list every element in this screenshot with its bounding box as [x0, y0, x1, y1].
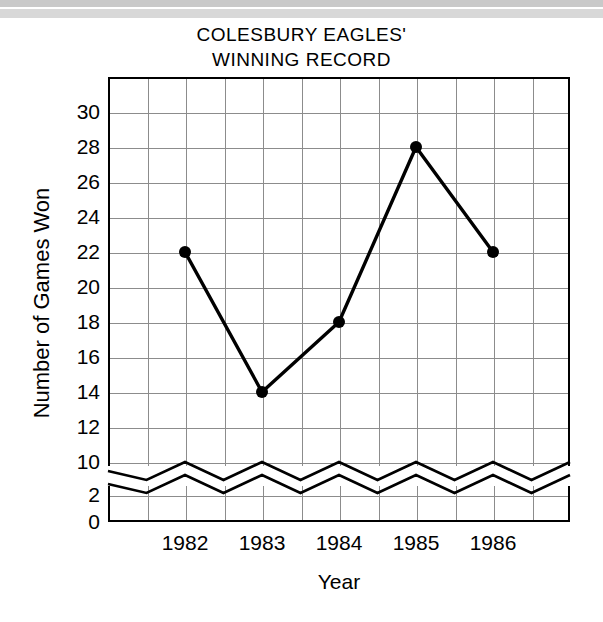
y-axis-title: Number of Games Won: [29, 113, 55, 493]
chart-figure: COLESBURY EAGLES' WINNING RECORD 3028262…: [0, 0, 603, 622]
x-tick-label-1984: 1984: [299, 532, 379, 553]
x-tick-label-1983: 1983: [222, 532, 302, 553]
x-tick-label-1982: 1982: [145, 532, 225, 553]
x-tick-label-1985: 1985: [376, 532, 456, 553]
x-axis-tick-labels: 19821983198419851986: [0, 0, 603, 622]
x-tick-label-1986: 1986: [453, 532, 533, 553]
x-axis-title: Year: [108, 570, 570, 594]
